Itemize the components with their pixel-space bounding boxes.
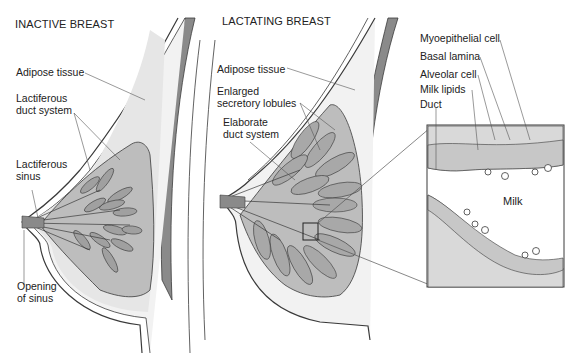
inactive-duct-system-label: Lactiferous duct system bbox=[16, 92, 72, 116]
lactating-adipose-label: Adipose tissue bbox=[217, 63, 285, 75]
alveolar-cell-label: Alveolar cell bbox=[420, 68, 477, 80]
alveolus-inset-illustration bbox=[427, 125, 564, 287]
basal-lamina-label: Basal lamina bbox=[420, 50, 480, 62]
milk-label: Milk bbox=[503, 195, 523, 207]
lactating-lobules-label: Enlarged secretory lobules bbox=[217, 85, 296, 109]
breast-anatomy-diagram: INACTIVE BREAST Adipose tissue Lactifero… bbox=[0, 0, 572, 353]
lactating-duct-system-label: Elaborate duct system bbox=[223, 116, 279, 140]
diagram-artwork bbox=[0, 0, 572, 353]
duct-label: Duct bbox=[420, 98, 442, 110]
inactive-breast-title: INACTIVE BREAST bbox=[15, 18, 114, 30]
milk-lipids-label: Milk lipids bbox=[420, 83, 466, 95]
inactive-opening-label: Opening of sinus bbox=[17, 280, 57, 304]
inactive-sinus-label: Lactiferous sinus bbox=[16, 158, 67, 182]
myoepithelial-cell-label: Myoepithelial cell bbox=[420, 32, 500, 44]
inactive-adipose-label: Adipose tissue bbox=[16, 66, 84, 78]
lactating-breast-title: LACTATING BREAST bbox=[222, 15, 331, 27]
